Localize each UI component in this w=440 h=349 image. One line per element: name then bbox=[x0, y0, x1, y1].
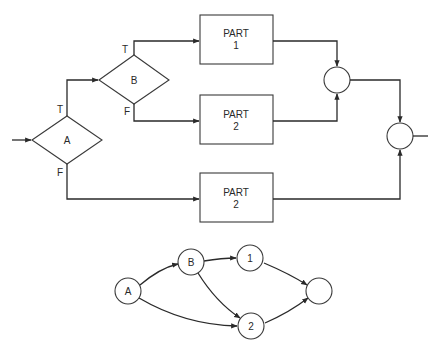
svg-text:A: A bbox=[125, 286, 132, 297]
part2-bottom-line1: PART bbox=[223, 187, 249, 198]
edge-part2-to-join1 bbox=[273, 94, 337, 121]
decision-b-true-label: T bbox=[122, 44, 128, 55]
graph-node-1: 1 bbox=[237, 245, 263, 271]
process-part1: PART 1 bbox=[200, 15, 273, 64]
edge-b-false-to-part2 bbox=[134, 104, 199, 121]
edge-part2-bottom-to-join2 bbox=[273, 150, 400, 199]
flowchart: A T F B T F PART 1 PART 2 bbox=[12, 15, 428, 222]
graph-edge-1-end bbox=[264, 263, 307, 285]
edge-join1-to-join2 bbox=[350, 80, 400, 122]
process-part2-bottom: PART 2 bbox=[200, 173, 273, 222]
graph-node-b: B bbox=[178, 249, 204, 275]
graph-edge-a-b bbox=[140, 264, 178, 285]
graph-edge-b-1 bbox=[204, 258, 236, 261]
edge-a-true-to-b bbox=[67, 80, 98, 116]
flow-graph: A B 1 2 bbox=[115, 245, 332, 339]
graph-edge-2-end bbox=[265, 298, 308, 323]
svg-text:1: 1 bbox=[247, 253, 253, 264]
process-part2-mid: PART 2 bbox=[200, 95, 273, 144]
decision-b-label: B bbox=[131, 75, 138, 86]
decision-a-true-label: T bbox=[57, 104, 63, 115]
decision-b: B bbox=[99, 55, 169, 104]
part1-line1: PART bbox=[223, 28, 249, 39]
edge-b-true-to-part1 bbox=[134, 41, 199, 55]
diagram-canvas: A T F B T F PART 1 PART 2 bbox=[0, 0, 440, 349]
edge-a-false-to-part2-bottom bbox=[67, 164, 199, 199]
graph-edge-a-2 bbox=[139, 298, 237, 326]
graph-node-a: A bbox=[115, 278, 141, 304]
decision-b-false-label: F bbox=[124, 106, 130, 117]
part2-mid-line1: PART bbox=[223, 109, 249, 120]
junction-1 bbox=[324, 67, 350, 93]
junction-2 bbox=[387, 123, 413, 149]
graph-node-end bbox=[306, 278, 332, 304]
graph-node-2: 2 bbox=[238, 313, 264, 339]
decision-a: A bbox=[32, 116, 102, 164]
svg-text:2: 2 bbox=[248, 321, 254, 332]
svg-text:B: B bbox=[188, 257, 195, 268]
decision-a-label: A bbox=[64, 135, 71, 146]
decision-a-false-label: F bbox=[57, 167, 63, 178]
edge-part1-to-join1 bbox=[273, 41, 337, 66]
part2-mid-line2: 2 bbox=[233, 121, 239, 132]
part1-line2: 1 bbox=[233, 40, 239, 51]
graph-edge-b-2 bbox=[198, 273, 240, 318]
part2-bottom-line2: 2 bbox=[233, 199, 239, 210]
